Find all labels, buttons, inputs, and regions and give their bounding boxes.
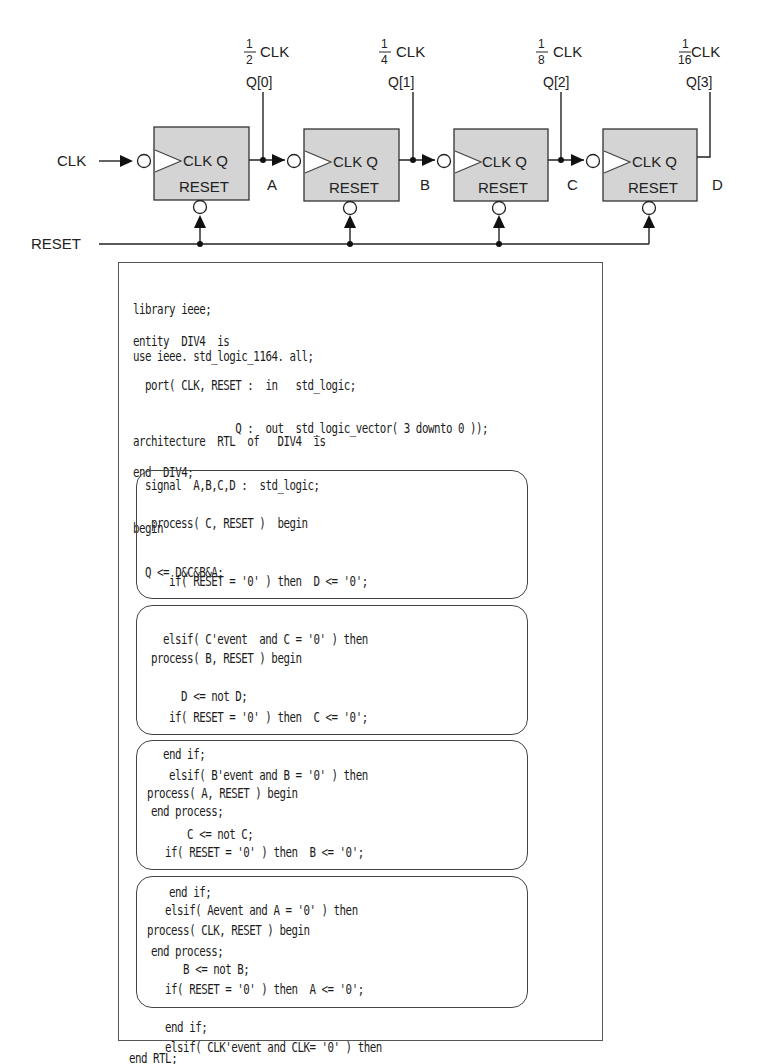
signal-label-a: A <box>267 176 277 193</box>
inverter-bubble-icon <box>587 155 600 168</box>
code-line: if( RESET = '0' ) then A <= '0'; <box>147 980 382 1000</box>
freq-label: CLK <box>553 43 582 60</box>
freq-den: 2 <box>246 53 253 67</box>
code-line: if( RESET = '0' ) then B <= '0'; <box>147 843 364 863</box>
tap-label-q1: Q[1] <box>388 74 414 90</box>
junction-dot-icon <box>496 241 502 247</box>
junction-dot-icon <box>197 241 203 247</box>
clk-input-label: CLK <box>57 152 86 169</box>
ff-reset-label: RESET <box>628 179 678 196</box>
ff-reset-label: RESET <box>478 179 528 196</box>
process-block-c: process( B, RESET ) begin if( RESET = '0… <box>136 605 528 735</box>
freq-label: CLK <box>691 43 720 60</box>
code-line: process( CLK, RESET ) begin <box>147 921 382 941</box>
ff-clk-q-label: CLK Q <box>333 153 378 170</box>
freq-label: CLK <box>396 43 425 60</box>
reset-input-label: RESET <box>31 235 81 252</box>
ff-clk-q-label: CLK Q <box>632 153 677 170</box>
architecture-end: end RTL; <box>129 1020 177 1064</box>
ff-reset-label: RESET <box>329 179 379 196</box>
code-line: process( A, RESET ) begin <box>147 784 364 804</box>
process-block-d: process( C, RESET ) begin if( RESET = '0… <box>136 470 528 599</box>
freq-num: 1 <box>682 37 689 51</box>
ff-clk-q-label: CLK Q <box>183 152 228 169</box>
arrow-icon <box>344 215 356 228</box>
flip-flop-1: CLK Q RESET A Q[0] 1 2 CLK <box>138 37 290 247</box>
freq-num: 1 <box>538 37 545 51</box>
ff-clk-q-label: CLK Q <box>482 153 527 170</box>
flip-flop-2: CLK Q RESET B Q[1] 1 4 CLK <box>288 37 436 247</box>
code-line: if( RESET = '0' ) then C <= '0'; <box>151 708 368 728</box>
flip-flop-4: CLK Q RESET D Q[3] 1 16 CLK <box>587 37 724 244</box>
signal-label-c: C <box>567 176 578 193</box>
tap-label-q0: Q[0] <box>246 74 272 90</box>
freq-den: 8 <box>538 53 545 67</box>
code-line: architecture RTL of DIV4 is <box>133 435 326 450</box>
vhdl-code-listing: library ieee; use ieee. std_logic_1164. … <box>118 262 603 1041</box>
arrow-icon <box>493 215 505 228</box>
arrow-icon <box>194 215 206 228</box>
code-line: elsif( CLK'event and CLK= '0' ) then <box>147 1038 382 1058</box>
freq-num: 1 <box>381 37 388 51</box>
arrow-icon <box>643 215 655 228</box>
arrow-icon <box>571 154 584 166</box>
inverter-bubble-icon <box>438 155 451 168</box>
code-line: end RTL; <box>129 1051 177 1064</box>
process-block-a: process( CLK, RESET ) begin if( RESET = … <box>136 876 528 1008</box>
reset-bubble-icon <box>194 201 207 214</box>
code-line: process( B, RESET ) begin <box>151 649 368 669</box>
arrow-icon <box>422 154 435 166</box>
process-block-b: process( A, RESET ) begin if( RESET = '0… <box>136 740 528 870</box>
code-line: port( CLK, RESET : in std_logic; <box>133 379 488 394</box>
inverter-bubble-icon <box>138 155 151 168</box>
junction-dot-icon <box>347 241 353 247</box>
ripple-counter-schematic: CLK RESET CLK Q RESET A Q[0] 1 2 CLK CLK… <box>0 0 758 260</box>
junction-dot-icon <box>410 157 416 163</box>
code-line: process( C, RESET ) begin <box>151 514 368 533</box>
code-line: if( RESET = '0' ) then D <= '0'; <box>151 572 368 591</box>
signal-label-d: D <box>712 176 723 193</box>
tap-label-q2: Q[2] <box>543 74 569 90</box>
freq-den: 16 <box>678 53 692 67</box>
signal-label-b: B <box>420 176 430 193</box>
freq-label: CLK <box>260 43 289 60</box>
freq-num: 1 <box>246 37 253 51</box>
reset-bubble-icon <box>643 202 656 215</box>
code-line: entity DIV4 is <box>133 335 488 350</box>
ff-reset-label: RESET <box>179 178 229 195</box>
junction-dot-icon <box>260 157 266 163</box>
arrow-icon <box>120 155 133 167</box>
flip-flop-3: CLK Q RESET C Q[2] 1 8 CLK <box>438 37 585 247</box>
freq-den: 4 <box>381 53 388 67</box>
inverter-bubble-icon <box>288 155 301 168</box>
arrow-icon <box>272 154 285 166</box>
reset-bubble-icon <box>493 202 506 215</box>
junction-dot-icon <box>558 157 564 163</box>
reset-bubble-icon <box>344 202 357 215</box>
tap-label-q3: Q[3] <box>686 74 712 90</box>
